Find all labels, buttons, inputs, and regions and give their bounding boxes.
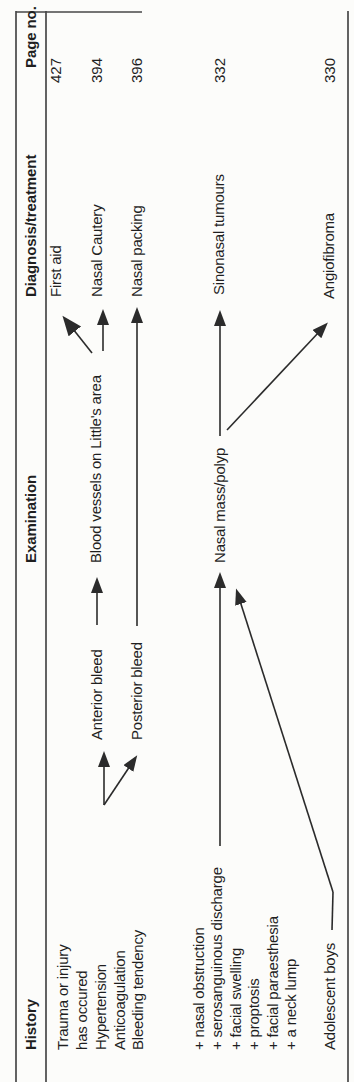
arrow-blood-vessels-to-first-aid	[73, 329, 92, 353]
arrow-adolescent-boys-to-nasal-mass	[240, 601, 333, 892]
diagnosis-item-first-aid: First aid	[47, 245, 64, 297]
history-item-adolescent-boys: Adolescent boys	[321, 943, 338, 1050]
diagnosis-item-nasal-packing: Nasal packing	[128, 205, 145, 297]
history-item-facial-paraesthesia: + facial paraesthesia	[264, 916, 281, 1050]
exam-item-blood-vessels: Blood vessels on Little's area	[87, 375, 104, 563]
exam-item-posterior-bleed: Posterior bleed	[128, 642, 145, 740]
arrow-fork-to-posterior-bleed	[104, 766, 130, 805]
arrow-nasal-mass-to-angiofibroma	[227, 332, 319, 430]
col-header-history: History	[22, 999, 39, 1050]
history-item-hypertension: Hypertension	[92, 964, 109, 1050]
adolescent-boys-dash	[332, 892, 333, 930]
history-item-serosanguinous: + serosanguinous discharge	[208, 867, 225, 1050]
scanned-page: History Examination Diagnosis/treatment …	[0, 0, 354, 1082]
diagnosis-item-angiofibroma: Angiofibroma	[320, 213, 337, 299]
diagnosis-item-nasal-cautery: Nasal Cautery	[88, 205, 105, 297]
page-no-nasal-cautery: 394	[88, 58, 105, 83]
history-item-neck-lump: + a neck lump	[282, 959, 299, 1050]
history-item-anticoagulation: Anticoagulation	[111, 950, 128, 1050]
rotated-table: History Examination Diagnosis/treatment …	[0, 0, 354, 1082]
history-item-facial-swelling: + facial swelling	[227, 948, 244, 1050]
col-header-examination: Examination	[22, 475, 39, 563]
exam-item-nasal-mass: Nasal mass/polyp	[211, 448, 228, 563]
page-no-sinonasal: 332	[211, 58, 228, 83]
exam-item-anterior-bleed: Anterior bleed	[88, 649, 105, 740]
table-rules-and-arrows	[0, 0, 354, 1082]
history-item-has-occured: has occured	[73, 970, 90, 1050]
history-item-nasal-obstruction: + nasal obstruction	[190, 927, 207, 1050]
page-no-angiofibroma: 330	[321, 58, 338, 83]
page-no-nasal-packing: 396	[128, 58, 145, 83]
col-header-page-no: Page no.	[22, 6, 39, 68]
history-item-proptosis: + proptosis	[245, 978, 262, 1050]
history-item-bleeding-tendency: Bleeding tendency	[129, 930, 146, 1050]
col-header-diagnosis: Diagnosis/treatment	[22, 155, 39, 297]
page-no-first-aid: 427	[47, 58, 64, 83]
history-item-trauma: Trauma or injury	[54, 945, 71, 1050]
diagnosis-item-sinonasal-tumours: Sinonasal tumours	[210, 174, 227, 295]
